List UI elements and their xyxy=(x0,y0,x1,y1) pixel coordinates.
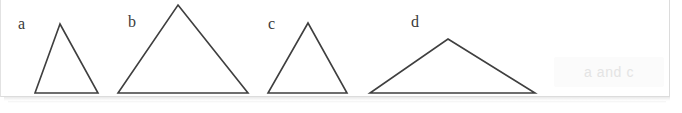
answer-chip[interactable]: a and c xyxy=(554,57,664,87)
screenshot-root: a b c d a and c xyxy=(0,0,682,113)
triangle-c-label: c xyxy=(268,16,275,32)
triangle-d-label: d xyxy=(411,14,419,30)
card-shadow-secondary xyxy=(8,101,666,103)
answer-chip-label: a and c xyxy=(584,64,634,80)
triangle-b-label: b xyxy=(128,14,136,30)
triangle-a-label: a xyxy=(18,16,25,32)
